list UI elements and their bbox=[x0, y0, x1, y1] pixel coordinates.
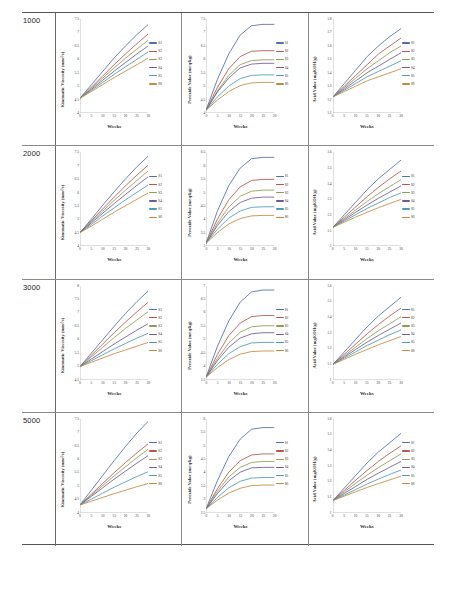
legend-item[interactable]: S2 bbox=[402, 47, 433, 55]
plot-svg bbox=[333, 286, 401, 380]
y-axis-ticks: 3.544.555.566.57 bbox=[193, 286, 205, 380]
axis-lines bbox=[206, 152, 274, 246]
plot-area bbox=[80, 419, 148, 513]
legend-item[interactable]: S3 bbox=[402, 322, 433, 330]
legend-item[interactable]: S5 bbox=[149, 72, 180, 80]
legend-item[interactable]: S3 bbox=[149, 55, 180, 63]
y-axis-label-text: Peroxide Value (meq/kg) bbox=[186, 188, 191, 236]
legend-item[interactable]: S1 bbox=[276, 39, 307, 47]
legend-item[interactable]: S3 bbox=[276, 55, 307, 63]
legend-item[interactable]: S5 bbox=[402, 205, 433, 213]
legend-item[interactable]: S5 bbox=[149, 472, 180, 480]
legend-item[interactable]: S3 bbox=[276, 322, 307, 330]
legend-item[interactable]: S5 bbox=[149, 205, 180, 213]
legend-item[interactable]: S2 bbox=[276, 180, 307, 188]
legend-item[interactable]: S4 bbox=[402, 330, 433, 338]
legend-item[interactable]: S1 bbox=[149, 439, 180, 447]
legend-item[interactable]: S6 bbox=[276, 346, 307, 354]
chart-panel-r2000-kinematic-viscosity: Kinematic Viscosity (mm²/s)44.555.566.57… bbox=[56, 146, 182, 278]
legend-item[interactable]: S2 bbox=[402, 447, 433, 455]
y-tick-label: 5 bbox=[204, 84, 206, 88]
x-tick-label: 15 bbox=[112, 514, 116, 518]
legend-label: S4 bbox=[285, 66, 289, 70]
legend-item[interactable]: S3 bbox=[402, 455, 433, 463]
legend-item[interactable]: S6 bbox=[276, 480, 307, 488]
legend-item[interactable]: S5 bbox=[276, 205, 307, 213]
legend-item[interactable]: S5 bbox=[402, 472, 433, 480]
legend-item[interactable]: S1 bbox=[402, 172, 433, 180]
legend-item[interactable]: S1 bbox=[149, 172, 180, 180]
legend-item[interactable]: S6 bbox=[402, 213, 433, 221]
legend-swatch-icon bbox=[149, 442, 157, 443]
legend-item[interactable]: S2 bbox=[276, 47, 307, 55]
legend-item[interactable]: S2 bbox=[149, 447, 180, 455]
legend-item[interactable]: S4 bbox=[402, 463, 433, 471]
legend-item[interactable]: S4 bbox=[149, 330, 180, 338]
legend-item[interactable]: S1 bbox=[276, 439, 307, 447]
legend-item[interactable]: S6 bbox=[276, 213, 307, 221]
legend-item[interactable]: S4 bbox=[276, 463, 307, 471]
legend-item[interactable]: S1 bbox=[149, 39, 180, 47]
legend-item[interactable]: S6 bbox=[276, 80, 307, 88]
legend-item[interactable]: S2 bbox=[149, 47, 180, 55]
legend-item[interactable]: S5 bbox=[276, 472, 307, 480]
legend-item[interactable]: S6 bbox=[402, 346, 433, 354]
legend-swatch-icon bbox=[276, 483, 284, 484]
legend-item[interactable]: S4 bbox=[276, 197, 307, 205]
legend-item[interactable]: S2 bbox=[149, 180, 180, 188]
legend-item[interactable]: S3 bbox=[149, 455, 180, 463]
legend-item[interactable]: S1 bbox=[402, 439, 433, 447]
y-tick-label: 4.5 bbox=[201, 204, 206, 208]
legend-label: S1 bbox=[158, 441, 162, 445]
legend-item[interactable]: S3 bbox=[402, 55, 433, 63]
chart-legend: S1S2S3S4S5S6 bbox=[149, 39, 180, 88]
legend-item[interactable]: S5 bbox=[276, 338, 307, 346]
legend-item[interactable]: S2 bbox=[149, 314, 180, 322]
legend-item[interactable]: S5 bbox=[402, 338, 433, 346]
legend-item[interactable]: S1 bbox=[276, 172, 307, 180]
legend-item[interactable]: S2 bbox=[276, 447, 307, 455]
legend-item[interactable]: S6 bbox=[402, 80, 433, 88]
legend-swatch-icon bbox=[149, 309, 157, 310]
x-axis-label: Weeks bbox=[333, 257, 401, 262]
chart-legend: S1S2S3S4S5S6 bbox=[149, 306, 180, 355]
legend-item[interactable]: S5 bbox=[276, 72, 307, 80]
row-label-cell: 5000 bbox=[22, 413, 56, 546]
legend-swatch-icon bbox=[402, 334, 410, 335]
row-label-cell: 1000 bbox=[22, 13, 56, 145]
legend-item[interactable]: S5 bbox=[402, 72, 433, 80]
legend-item[interactable]: S2 bbox=[276, 314, 307, 322]
legend-item[interactable]: S6 bbox=[149, 480, 180, 488]
legend-item[interactable]: S4 bbox=[149, 463, 180, 471]
legend-item[interactable]: S6 bbox=[149, 346, 180, 354]
legend-item[interactable]: S3 bbox=[276, 189, 307, 197]
legend-item[interactable]: S4 bbox=[402, 197, 433, 205]
legend-item[interactable]: S2 bbox=[402, 314, 433, 322]
legend-item[interactable]: S1 bbox=[149, 306, 180, 314]
legend-item[interactable]: S6 bbox=[149, 213, 180, 221]
legend-item[interactable]: S4 bbox=[149, 197, 180, 205]
legend-item[interactable]: S1 bbox=[402, 39, 433, 47]
legend-item[interactable]: S4 bbox=[276, 64, 307, 72]
legend-item[interactable]: S3 bbox=[402, 189, 433, 197]
y-tick-label: 7.5 bbox=[75, 150, 80, 154]
legend-item[interactable]: S1 bbox=[402, 306, 433, 314]
legend-item[interactable]: S2 bbox=[402, 180, 433, 188]
legend-item[interactable]: S6 bbox=[402, 480, 433, 488]
plot-area bbox=[206, 419, 274, 513]
x-axis-ticks: 051015202530 bbox=[206, 514, 274, 522]
x-tick-label: 5 bbox=[217, 514, 219, 518]
legend-item[interactable]: S4 bbox=[402, 64, 433, 72]
legend-item[interactable]: S1 bbox=[276, 306, 307, 314]
legend-item[interactable]: S3 bbox=[149, 189, 180, 197]
x-axis-label: Weeks bbox=[80, 391, 148, 396]
x-tick-label: 10 bbox=[354, 381, 358, 385]
legend-item[interactable]: S4 bbox=[276, 330, 307, 338]
x-axis-label: Weeks bbox=[206, 524, 274, 529]
legend-item[interactable]: S4 bbox=[149, 64, 180, 72]
legend-item[interactable]: S5 bbox=[149, 338, 180, 346]
legend-item[interactable]: S6 bbox=[149, 80, 180, 88]
x-tick-label: 15 bbox=[239, 381, 243, 385]
legend-item[interactable]: S3 bbox=[149, 322, 180, 330]
legend-item[interactable]: S3 bbox=[276, 455, 307, 463]
